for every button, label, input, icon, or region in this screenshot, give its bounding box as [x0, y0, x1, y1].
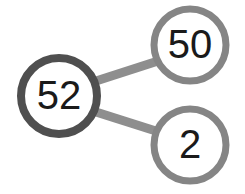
connector-whole-to-50 — [96, 61, 158, 81]
whole-value-label: 52 — [37, 73, 82, 117]
part-top-value-label: 50 — [168, 22, 213, 66]
number-bond-svg: 52 50 2 — [0, 0, 245, 194]
part-bottom-value-label: 2 — [179, 122, 201, 166]
connector-whole-to-2 — [96, 112, 159, 132]
number-bond-diagram: 52 50 2 — [0, 0, 245, 194]
